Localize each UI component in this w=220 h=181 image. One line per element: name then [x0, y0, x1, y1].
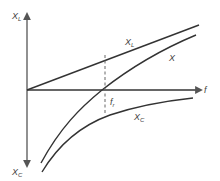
curve-label-xl: XL — [124, 37, 134, 48]
axis-label-xc: XC — [11, 167, 23, 178]
capacitive-reactance-curve — [42, 98, 193, 172]
axis-label-f: f — [204, 85, 208, 95]
curve-label-x: X — [168, 53, 176, 63]
curve-label-xc: XC — [133, 112, 145, 123]
reactance-diagram: XL XC f XL X XC fr — [0, 0, 220, 181]
axis-label-xl: XL — [11, 11, 21, 22]
resonance-label: fr — [110, 97, 116, 108]
